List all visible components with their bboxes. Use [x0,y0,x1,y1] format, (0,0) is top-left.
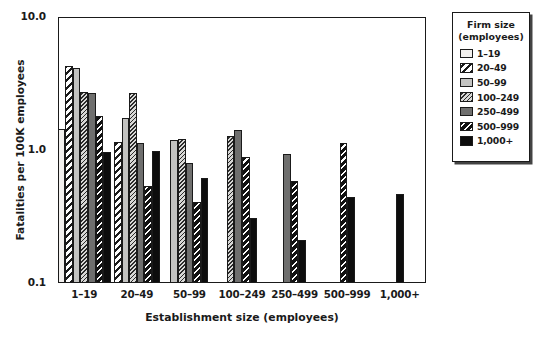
x-tick-label: 50–99 [163,288,216,300]
bars-layer [58,17,426,283]
x-tick-label: 500–999 [321,288,374,300]
legend-item-label: 20–49 [477,62,507,73]
legend-items: 1–1920–4950–99100–249250–499500–9991,000… [453,46,529,148]
bar [193,202,201,284]
legend-swatch-icon [460,122,473,132]
bar [144,186,152,283]
chart-root: Fatality Rate by Firm Size, Holding Esta… [0,0,536,341]
y-tick-label: 10.0 [0,10,46,22]
bar [340,143,348,283]
x-tick-label: 1–19 [58,288,111,300]
y-tick-label: 1.0 [0,143,46,155]
bar [291,181,299,283]
bar [250,218,258,283]
legend-item[interactable]: 1,000+ [460,134,529,149]
bar [234,130,242,283]
bar [103,152,111,283]
bar [170,140,178,283]
legend-swatch-icon [460,92,473,102]
legend: Firm size (employees) 1–1920–4950–99100–… [452,12,530,162]
legend-swatch-icon [460,49,473,59]
legend-swatch-icon [460,136,473,146]
x-tick-label: 1,000+ [373,288,426,300]
legend-item-label: 1–19 [477,48,500,59]
legend-item[interactable]: 1–19 [460,46,529,61]
x-axis-label: Establishment size (employees) [58,311,426,324]
legend-swatch-icon [460,107,473,117]
bar [80,92,88,283]
legend-title-line-2: (employees) [453,31,529,43]
legend-title-line-1: Firm size [453,19,529,31]
bar [152,151,160,283]
bar [122,118,130,283]
bar [73,68,81,283]
legend-item-label: 250–499 [477,106,519,117]
legend-item[interactable]: 500–999 [460,119,529,134]
bar [186,163,194,283]
legend-item[interactable]: 250–499 [460,104,529,119]
y-tick-label: 0.1 [0,276,46,288]
bar [227,136,235,283]
bar [88,93,96,283]
bar [58,129,66,283]
legend-swatch-icon [460,63,473,73]
x-tick-label: 250–499 [268,288,321,300]
legend-item-label: 100–249 [477,92,519,103]
bar [201,178,209,283]
legend-item-label: 500–999 [477,121,519,132]
bar [96,116,104,283]
legend-item[interactable]: 50–99 [460,75,529,90]
legend-item[interactable]: 20–49 [460,61,529,76]
bar [298,240,306,283]
bar [65,66,73,283]
bar [114,142,122,283]
legend-title: Firm size (employees) [453,19,529,42]
legend-item-label: 50–99 [477,77,507,88]
bar [137,143,145,283]
x-tick-label: 20–49 [111,288,164,300]
legend-swatch-icon [460,78,473,88]
bar [283,154,291,283]
bar [396,194,404,283]
bar [242,157,250,283]
bar [347,197,355,283]
legend-item-label: 1,000+ [477,135,513,146]
bar [178,139,186,283]
legend-item[interactable]: 100–249 [460,90,529,105]
x-tick-label: 100–249 [216,288,269,300]
bar [129,93,137,283]
